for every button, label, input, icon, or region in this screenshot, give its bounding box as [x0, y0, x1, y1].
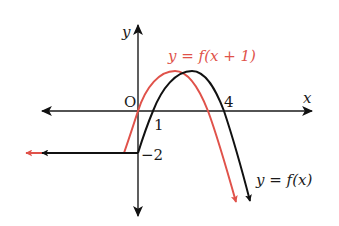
x-tick-1-label: 1	[154, 116, 164, 134]
origin-label: O	[124, 93, 136, 111]
y-tick-neg2-label: −2	[141, 146, 163, 164]
curve-f-x-plus-1	[26, 71, 236, 202]
y-axis-label: y	[121, 23, 131, 41]
black-parabola	[138, 71, 250, 201]
red-curve-label: y = f(x + 1)	[167, 47, 256, 65]
x-tick-4-label: 4	[224, 93, 234, 111]
red-parabola	[124, 71, 236, 202]
function-graph: y x O 1 4 −2 y = f(x + 1) y = f(x)	[0, 0, 339, 226]
black-curve-label: y = f(x)	[255, 171, 312, 189]
x-axis-label: x	[303, 89, 312, 107]
